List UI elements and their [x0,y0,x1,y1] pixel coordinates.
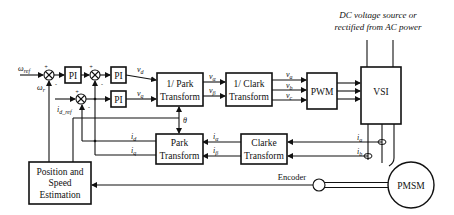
svg-text:iq: iq [131,146,136,156]
theta-label: θ [183,116,187,125]
svg-text:Park: Park [171,138,189,148]
dc-source-annotation-line2: rectified from AC power [335,22,422,32]
svg-text:va: va [286,70,293,80]
pmsm-foc-block-diagram: DC voltage source or rectified from AC p… [0,0,454,215]
svg-text:1/ Park: 1/ Park [166,79,193,89]
omega-r-label: ωr [37,83,46,93]
svg-text:Speed: Speed [48,178,71,188]
svg-text:-: - [88,104,90,110]
svg-text:PI: PI [114,95,122,105]
svg-text:PMSM: PMSM [397,181,425,191]
svg-text:+: + [75,89,79,95]
svg-text:+: + [89,64,93,70]
summing-junction-iq [90,70,100,80]
svg-text:vc: vc [286,91,293,101]
svg-text:-: - [101,81,103,87]
svg-text:1/ Clark: 1/ Clark [234,79,265,89]
svg-text:Estimation: Estimation [39,190,80,200]
svg-text:id_ref: id_ref [57,105,73,115]
svg-text:Transform: Transform [160,92,200,102]
svg-text:iβ: iβ [213,146,218,156]
svg-text:vd: vd [137,65,145,75]
svg-text:ib: ib [357,147,362,157]
svg-text:vb: vb [286,81,293,91]
svg-text:PI: PI [69,71,77,81]
svg-text:VSI: VSI [373,87,388,97]
svg-text:Transform: Transform [229,92,269,102]
svg-text:vq: vq [137,89,144,99]
svg-text:PWM: PWM [311,87,334,97]
encoder-icon [313,179,325,191]
svg-text:vα: vα [209,72,217,82]
summing-junction-speed [44,70,54,80]
svg-text:PI: PI [114,71,122,81]
svg-text:Transform: Transform [160,151,200,161]
svg-text:+: + [44,64,48,70]
omega-ref-label: ωref [18,64,31,74]
id-ref-label: id_ref [57,105,73,115]
svg-text:Clarke: Clarke [251,138,276,148]
svg-text:iα: iα [213,132,219,142]
svg-text:ωref: ωref [18,64,31,74]
svg-text:vβ: vβ [209,86,216,96]
dc-source-annotation-line1: DC voltage source or [338,10,417,20]
svg-text:Encoder: Encoder [278,172,306,182]
svg-text:ωr: ωr [37,83,46,93]
svg-text:ia: ia [357,133,362,143]
svg-text:Position and: Position and [36,167,83,177]
summing-junction-id [76,94,86,104]
svg-text:-: - [55,81,57,87]
svg-text:Transform: Transform [244,151,284,161]
